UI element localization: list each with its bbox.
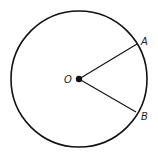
diagram-svg: O A B — [0, 0, 158, 153]
circle-diagram: O A B — [0, 0, 158, 153]
label-a: A — [140, 36, 148, 47]
label-b: B — [141, 111, 148, 122]
radius-oa — [79, 44, 137, 79]
label-o: O — [64, 74, 72, 85]
center-point — [76, 76, 82, 82]
radius-ob — [79, 79, 136, 112]
